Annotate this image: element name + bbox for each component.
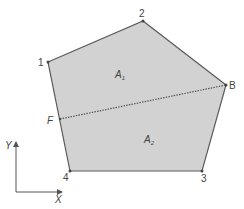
vertex-2-label: 2 xyxy=(139,8,145,19)
vertex-2-dot xyxy=(142,20,145,23)
pentagon-shape xyxy=(48,21,226,171)
y-axis-label: Y xyxy=(5,140,13,151)
vertex-3-label: 3 xyxy=(201,173,207,184)
coordinate-axes: Y X xyxy=(5,140,62,205)
x-axis-label: X xyxy=(54,194,62,205)
polygon-area-diagram: 1 2 B 3 4 F A1 A2 Y X xyxy=(0,0,244,209)
vertex-4-label: 4 xyxy=(63,172,69,183)
vertex-f-label: F xyxy=(47,115,54,126)
vertex-1-dot xyxy=(47,61,50,64)
vertex-1-label: 1 xyxy=(38,57,44,68)
vertex-b-label: B xyxy=(229,80,236,91)
vertex-b-dot xyxy=(225,84,228,87)
vertex-f-dot xyxy=(59,118,61,120)
vertex-4-dot xyxy=(69,170,72,173)
region-a2-subscript: 2 xyxy=(150,140,155,146)
region-a1-subscript: 1 xyxy=(122,75,125,81)
